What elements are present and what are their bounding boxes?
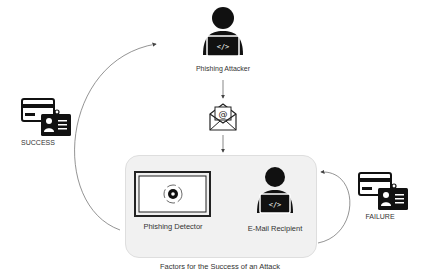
monitor-gear-icon [128, 170, 218, 215]
node-success: SUCCESS [5, 98, 71, 150]
detector-label: Phishing Detector [128, 222, 218, 231]
user-laptop-icon: </> [245, 167, 305, 217]
svg-text:@: @ [219, 109, 228, 119]
node-phishing-attacker: </> Phishing Attacker [190, 3, 256, 78]
node-failure: FAILURE [342, 172, 408, 224]
hacker-laptop-icon: </> [190, 3, 256, 63]
attacker-label: Phishing Attacker [180, 65, 266, 72]
open-envelope-at-icon: @ [207, 100, 239, 132]
svg-text:</>: </> [269, 201, 282, 209]
node-phishing-detector: Phishing Detector [128, 170, 218, 230]
svg-text:</>: </> [217, 43, 230, 51]
credit-card-id-badge-icon [5, 98, 71, 138]
diagram-caption: Factors for the Success of an Attack [120, 262, 320, 271]
success-label: SUCCESS [10, 139, 66, 146]
credit-card-id-badge-icon [342, 172, 408, 212]
node-email: @ [207, 100, 239, 132]
recipient-label: E-Mail Recipient [230, 224, 320, 233]
node-email-recipient: </> E-Mail Recipient [245, 167, 305, 237]
failure-label: FAILURE [352, 213, 408, 220]
